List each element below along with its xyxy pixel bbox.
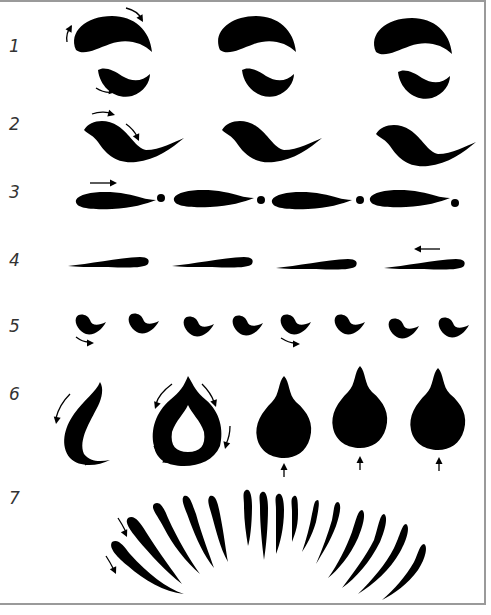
row-6-strokes — [53, 366, 466, 477]
row-3-strokes — [76, 180, 459, 210]
row-7-strokes — [106, 490, 426, 600]
row-5-strokes — [76, 313, 469, 347]
row-1-strokes — [65, 8, 452, 99]
row-2-strokes — [84, 110, 476, 166]
row-4-strokes — [68, 246, 465, 270]
stroke-diagram — [0, 0, 491, 615]
